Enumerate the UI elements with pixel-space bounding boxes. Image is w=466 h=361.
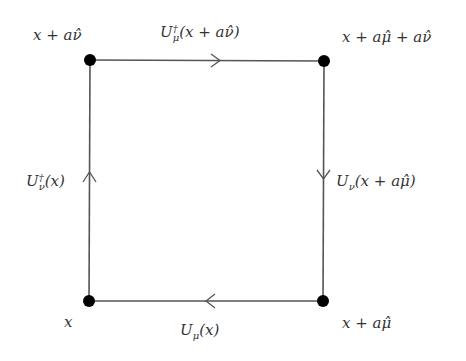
node-x-plus-nu [84, 54, 96, 66]
edge-label-right: Uν(x + aμ̂) [336, 174, 416, 192]
edge-label-top: U†μ(x + aν̂) [160, 24, 240, 42]
link-symbol: U [336, 172, 349, 190]
link-symbol: U [160, 23, 173, 41]
link-argument: (x + aμ̂) [355, 172, 416, 190]
edge-top [90, 60, 324, 61]
node-label-x-plus-mu: x + aμ̂ [342, 316, 391, 331]
edge-right [323, 61, 324, 301]
link-argument: (x) [45, 172, 65, 190]
node-x-plus-mu-plus-nu [318, 55, 330, 67]
node-label-x-plus-mu-plus-nu: x + aμ̂ + aν̂ [342, 30, 431, 45]
node-x-plus-mu [317, 295, 329, 307]
edge-label-bottom: Uμ(x) [180, 323, 219, 341]
node-x [83, 295, 95, 307]
link-argument: (x) [199, 321, 219, 339]
link-symbol: U [180, 321, 193, 339]
edge-label-left: U†ν(x) [26, 173, 65, 191]
edge-left [89, 60, 90, 301]
link-symbol: U [26, 172, 39, 190]
node-label-x: x [64, 315, 72, 330]
node-label-x-plus-nu: x + aν̂ [33, 28, 82, 43]
link-argument: (x + aν̂) [179, 23, 239, 41]
